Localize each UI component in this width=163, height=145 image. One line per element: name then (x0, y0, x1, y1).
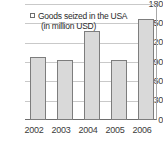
chart-legend: Goods seized in the USA (in million USD) (30, 11, 127, 31)
legend-square-marker-icon (30, 13, 35, 18)
bar-2005 (111, 60, 127, 120)
bar-2002 (30, 57, 46, 120)
bar-2003 (57, 60, 73, 120)
legend-label-line1: Goods seized in the USA (38, 11, 127, 21)
x-tick-label-2006: 2006 (122, 126, 162, 135)
legend-text-block: Goods seized in the USA (in million USD) (38, 11, 127, 31)
legend-label-line2: (in million USD) (38, 21, 127, 31)
bar-chart: 180 150 120 90 60 30 0 2002 2003 2004 20… (0, 0, 163, 145)
bar-2006 (138, 19, 154, 120)
bar-2004 (84, 31, 100, 120)
